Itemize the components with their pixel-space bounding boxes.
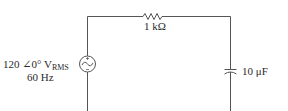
resistor-label: 1 kΩ [144,20,166,32]
sine-wave-icon [82,62,93,66]
source-unit: V [44,58,52,70]
capacitor-label: 10 μF [242,65,268,77]
circuit-diagram: 1 kΩ 120 ∠0° VRMS 60 Hz 10 μF [0,0,288,111]
circuit-schematic [0,0,288,111]
source-frequency-label: 60 Hz [27,71,54,83]
resistor-symbol [143,14,162,20]
source-magnitude: 120 [3,58,20,70]
source-unit-subscript: RMS [52,63,69,72]
source-angle: 0° [31,58,41,70]
